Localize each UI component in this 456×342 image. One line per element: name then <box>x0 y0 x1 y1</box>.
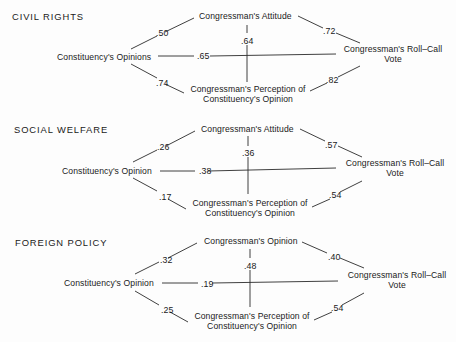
edge-constituency-vote <box>212 281 338 283</box>
coef-attitude-vote: .40 <box>328 252 341 262</box>
edge-constituency-attitude <box>131 36 157 49</box>
node-label-line: Congressman's Roll–Call <box>342 270 452 280</box>
node-label-line: Constituency's Opinion <box>190 208 310 218</box>
coef-constituency-attitude: .50 <box>156 28 169 38</box>
coef-attitude-perception: .36 <box>242 148 255 158</box>
node-label-line: Constituency's Opinion <box>188 94 308 104</box>
node-perception: Congressman's Perception of Constituency… <box>192 311 312 331</box>
node-label-line: Constituency's Opinion <box>192 321 312 331</box>
node-congressman-attitude: Congressman's Attitude <box>199 11 292 21</box>
coef-constituency-perception: .74 <box>156 78 169 88</box>
edge-constituency-attitude <box>165 18 194 32</box>
node-roll-call-vote: Congressman's Roll–Call Vote <box>340 158 450 178</box>
coef-perception-vote: .82 <box>326 75 339 85</box>
node-perception: Congressman's Perception of Constituency… <box>188 84 308 104</box>
coef-constituency-perception: .25 <box>161 305 174 315</box>
edge-perception-vote <box>340 181 362 192</box>
node-perception: Congressman's Perception of Constituency… <box>190 198 310 218</box>
node-label-line: Congressman's Roll–Call <box>338 44 448 54</box>
node-label-line: Congressman's Perception of <box>190 198 310 208</box>
edge-constituency-perception <box>133 178 157 191</box>
panel-title: SOCIAL WELFARE <box>14 125 108 135</box>
coef-constituency-attitude: .32 <box>160 255 173 265</box>
node-label-line: Vote <box>340 168 450 178</box>
edge-constituency-perception <box>131 64 157 78</box>
node-constituency-opinion: Constituency's Opinions <box>57 52 151 62</box>
node-label-line: Congressman's Perception of <box>192 311 312 321</box>
node-congressman-attitude: Congressman's Attitude <box>201 124 294 134</box>
node-constituency-opinion: Constituency's Opinion <box>62 166 152 176</box>
panel-title: FOREIGN POLICY <box>15 238 107 248</box>
edge-perception-vote <box>312 199 330 207</box>
panel-title: CIVIL RIGHTS <box>12 12 84 22</box>
node-label-line: Congressman's Perception of <box>188 84 308 94</box>
coef-attitude-vote: .57 <box>325 140 338 150</box>
edge-constituency-attitude <box>135 262 159 274</box>
node-label-line: Vote <box>338 54 448 64</box>
coef-constituency-vote: .65 <box>197 51 210 61</box>
node-label-line: Congressman's Roll–Call <box>340 158 450 168</box>
node-constituency-opinion: Constituency's Opinion <box>64 278 154 288</box>
coef-constituency-attitude: .26 <box>157 142 170 152</box>
node-roll-call-vote: Congressman's Roll–Call Vote <box>342 270 452 290</box>
edge-attitude-vote <box>340 258 364 268</box>
coef-constituency-vote: .38 <box>199 166 212 176</box>
edge-attitude-vote <box>298 16 323 28</box>
edge-constituency-attitude <box>133 150 157 162</box>
coef-attitude-perception: .48 <box>244 261 257 271</box>
coef-attitude-vote: .72 <box>323 26 336 36</box>
coef-constituency-perception: .17 <box>159 192 172 202</box>
edge-attitude-vote <box>300 129 325 141</box>
edge-constituency-vote <box>210 54 336 56</box>
edge-constituency-perception <box>135 291 159 305</box>
coef-perception-vote: .54 <box>331 303 344 313</box>
edge-attitude-vote <box>302 242 327 253</box>
coef-attitude-perception: .64 <box>241 36 254 46</box>
edge-attitude-vote <box>336 33 360 43</box>
node-roll-call-vote: Congressman's Roll–Call Vote <box>338 44 448 64</box>
node-congressman-opinion: Congressman's Opinion <box>204 236 298 246</box>
edge-constituency-attitude <box>166 131 195 146</box>
coef-perception-vote: .54 <box>329 190 342 200</box>
edge-perception-vote <box>338 66 360 77</box>
node-label-line: Vote <box>342 280 452 290</box>
edge-perception-vote <box>314 312 332 320</box>
edge-constituency-vote <box>208 168 336 171</box>
coef-constituency-vote: .19 <box>201 279 214 289</box>
edge-perception-vote <box>310 83 327 91</box>
edge-perception-vote <box>342 293 364 305</box>
edge-attitude-vote <box>338 146 362 157</box>
